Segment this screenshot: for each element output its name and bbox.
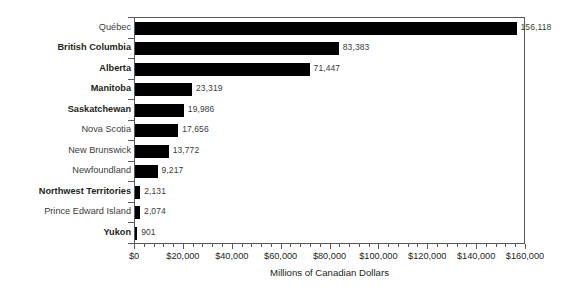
y-axis-label-text: Prince Edward Island xyxy=(0,202,131,219)
bar-row: 23,319 xyxy=(135,80,524,101)
x-axis-minor-tick xyxy=(408,244,409,247)
x-axis-minor-tick xyxy=(437,244,438,247)
y-axis-label-saskatchewan: Saskatchewan xyxy=(0,99,131,120)
bar-row: 156,118 xyxy=(135,18,524,39)
y-axis-label-qu-bec: Québec xyxy=(0,17,131,38)
x-axis-minor-tick xyxy=(290,244,291,247)
x-axis-minor-tick xyxy=(398,244,399,247)
x-axis-minor-tick xyxy=(163,244,164,247)
x-axis-minor-tick xyxy=(154,244,155,247)
bar-value-label: 83,383 xyxy=(343,41,370,54)
x-axis-major-tick xyxy=(378,244,379,249)
x-axis-minor-tick xyxy=(369,244,370,247)
bar xyxy=(135,104,184,117)
bar xyxy=(135,206,140,219)
bar xyxy=(135,63,310,76)
x-axis-tick-label: $120,000 xyxy=(408,250,446,263)
x-axis-tick-label: $20,000 xyxy=(166,250,199,263)
y-axis-label-text: New Brunswick xyxy=(0,140,131,157)
y-axis-label-manitoba: Manitoba xyxy=(0,79,131,100)
x-axis-tick-label: $40,000 xyxy=(215,250,248,263)
y-axis-label-prince-edward-island: Prince Edward Island xyxy=(0,202,131,223)
y-axis-label-text: Québec xyxy=(0,17,131,34)
x-axis-minor-tick xyxy=(251,244,252,247)
x-axis-major-tick xyxy=(476,244,477,249)
bar xyxy=(135,124,178,137)
x-axis-minor-tick xyxy=(388,244,389,247)
y-axis-label-text: Northwest Territories xyxy=(0,181,131,198)
bar-value-label: 2,131 xyxy=(144,185,166,198)
bar-row: 17,656 xyxy=(135,121,524,142)
x-axis-tick-label: $60,000 xyxy=(264,250,297,263)
x-axis-minor-tick xyxy=(417,244,418,247)
x-axis-minor-tick xyxy=(505,244,506,247)
bar-row: 2,131 xyxy=(135,182,524,203)
bar-value-label: 17,656 xyxy=(182,123,209,136)
x-axis-minor-tick xyxy=(320,244,321,247)
y-axis-label-text: Yukon xyxy=(0,222,131,239)
x-axis-minor-tick xyxy=(496,244,497,247)
bar-value-label: 23,319 xyxy=(196,82,223,95)
y-axis-label-text: Alberta xyxy=(0,58,131,75)
y-axis-label-new-brunswick: New Brunswick xyxy=(0,140,131,161)
y-axis-label-text: Newfoundland xyxy=(0,161,131,178)
bar xyxy=(135,22,517,35)
y-axis-label-text: Saskatchewan xyxy=(0,99,131,116)
x-axis-tick-label: $160,000 xyxy=(506,250,544,263)
y-axis-label-nova-scotia: Nova Scotia xyxy=(0,120,131,141)
x-axis-minor-tick xyxy=(193,244,194,247)
bar xyxy=(135,145,169,158)
x-axis-major-tick xyxy=(427,244,428,249)
x-axis-major-tick xyxy=(330,244,331,249)
x-axis-minor-tick xyxy=(486,244,487,247)
bar xyxy=(135,227,137,240)
bar xyxy=(135,165,158,178)
bar xyxy=(135,42,339,55)
x-axis-major-tick xyxy=(281,244,282,249)
bar xyxy=(135,83,192,96)
bar-value-label: 901 xyxy=(141,226,155,239)
x-axis-minor-tick xyxy=(515,244,516,247)
y-axis-label-newfoundland: Newfoundland xyxy=(0,161,131,182)
bar-row: 9,217 xyxy=(135,162,524,183)
x-axis-minor-tick xyxy=(300,244,301,247)
x-axis-major-tick xyxy=(134,244,135,249)
bar-row: 13,772 xyxy=(135,141,524,162)
x-axis-minor-tick xyxy=(271,244,272,247)
bar-value-label: 156,118 xyxy=(521,21,552,34)
x-axis-minor-tick xyxy=(173,244,174,247)
x-axis-minor-tick xyxy=(447,244,448,247)
x-axis-minor-tick xyxy=(466,244,467,247)
y-axis-label-yukon: Yukon xyxy=(0,222,131,243)
x-axis-tick-label: $0 xyxy=(129,250,139,263)
x-axis-minor-tick xyxy=(222,244,223,247)
x-axis-minor-tick xyxy=(202,244,203,247)
x-axis-tick-label: $140,000 xyxy=(457,250,495,263)
plot-area: 156,11883,38371,44723,31919,98617,65613,… xyxy=(134,17,525,243)
x-axis-major-tick xyxy=(183,244,184,249)
x-axis-minor-tick xyxy=(457,244,458,247)
x-axis-minor-tick xyxy=(212,244,213,247)
x-axis-minor-tick xyxy=(349,244,350,247)
x-axis-major-tick xyxy=(525,244,526,249)
bar-value-label: 9,217 xyxy=(162,164,184,177)
y-axis-label-text: Manitoba xyxy=(0,79,131,96)
y-axis-category-labels: QuébecBritish ColumbiaAlbertaManitobaSas… xyxy=(0,17,131,243)
x-axis-minor-tick xyxy=(242,244,243,247)
x-axis-title: Millions of Canadian Dollars xyxy=(134,267,525,278)
bar-chart: QuébecBritish ColumbiaAlbertaManitobaSas… xyxy=(0,0,574,295)
x-axis-minor-tick xyxy=(359,244,360,247)
x-axis-tick-label: $80,000 xyxy=(313,250,346,263)
bar-row: 19,986 xyxy=(135,100,524,121)
bar-row: 901 xyxy=(135,223,524,244)
x-axis-minor-tick xyxy=(339,244,340,247)
bar-row: 83,383 xyxy=(135,39,524,60)
bar-value-label: 13,772 xyxy=(173,144,200,157)
x-axis-minor-tick xyxy=(261,244,262,247)
x-axis-major-tick xyxy=(232,244,233,249)
bar-value-label: 71,447 xyxy=(314,62,341,75)
bar-row: 71,447 xyxy=(135,59,524,80)
y-axis-label-british-columbia: British Columbia xyxy=(0,38,131,59)
y-axis-label-text: Nova Scotia xyxy=(0,120,131,137)
x-axis-minor-tick xyxy=(310,244,311,247)
